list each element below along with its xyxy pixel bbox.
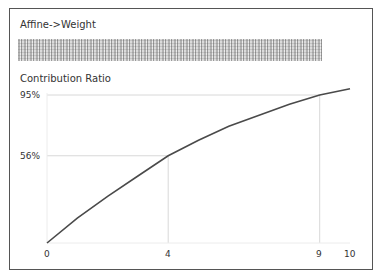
contribution-curve (47, 89, 350, 243)
reference-lines (47, 93, 350, 243)
plot-area (0, 0, 384, 278)
